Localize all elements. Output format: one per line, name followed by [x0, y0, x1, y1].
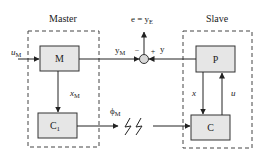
block-p: P	[196, 46, 235, 72]
label-e: e = y	[131, 14, 150, 24]
label-u: u	[231, 88, 236, 98]
master-label: Master	[49, 13, 77, 24]
master-slave-diagram: Master Slave M C1 P C − +	[0, 0, 264, 157]
wireless-channel-icon	[125, 118, 142, 135]
label-x: x	[191, 88, 196, 98]
block-m-label: M	[55, 53, 64, 64]
svg-text:yM: yM	[115, 45, 126, 56]
label-y: y	[160, 44, 165, 54]
plus-sign: +	[151, 47, 156, 56]
block-c: C	[191, 115, 230, 140]
summing-junction: − +	[135, 46, 156, 64]
svg-text:ϕM: ϕM	[110, 106, 121, 117]
svg-text:uM: uM	[11, 47, 22, 58]
block-c-label: C	[207, 122, 214, 133]
block-p-label: P	[213, 54, 219, 65]
block-c1-subscript: 1	[57, 125, 61, 133]
svg-text:e = yE: e = yE	[131, 14, 153, 25]
svg-text:xM: xM	[69, 88, 80, 99]
slave-label: Slave	[206, 13, 229, 24]
minus-sign: −	[135, 46, 140, 55]
block-c1: C1	[38, 113, 77, 138]
block-m: M	[40, 46, 79, 71]
